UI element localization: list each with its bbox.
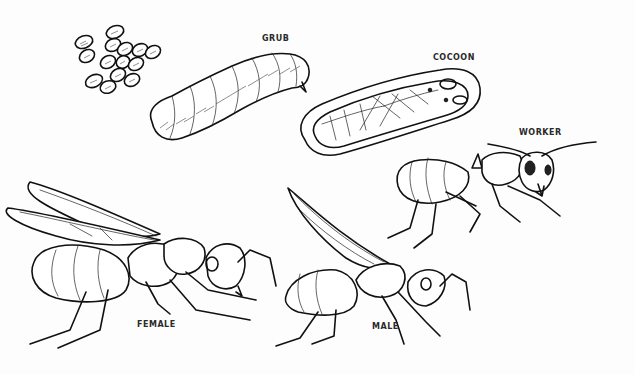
worker-drawing <box>388 142 596 248</box>
grub-drawing <box>151 53 310 140</box>
grub-label: GRUB <box>262 34 289 43</box>
male-label: MALE <box>372 322 399 331</box>
eggs-drawing <box>73 23 162 95</box>
cocoon-drawing <box>301 69 480 155</box>
cocoon-label: COCOON <box>433 53 475 62</box>
ant-life-cycle-illustration: GRUB COCOON WORKER FEMALE MALE <box>0 0 635 375</box>
female-label: FEMALE <box>137 320 176 329</box>
worker-label: WORKER <box>519 128 562 137</box>
illustration-canvas <box>0 0 635 375</box>
